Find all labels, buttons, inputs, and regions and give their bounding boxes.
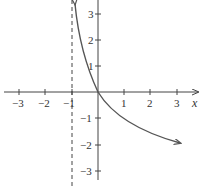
x-tick-label: 1 <box>121 97 127 109</box>
y-tick-label: −3 <box>80 165 92 177</box>
y-tick-label: 3 <box>88 8 94 20</box>
x-tick-label: 3 <box>174 97 180 109</box>
x-tick-label: −3 <box>12 97 24 109</box>
x-tick-label: −2 <box>38 97 50 109</box>
x-tick-label: −1 <box>63 97 75 109</box>
y-tick-label: 2 <box>88 34 94 46</box>
chart-canvas: −3 −2 −1 1 2 3 x 3 2 1 −1 −2 −3 <box>0 0 202 188</box>
x-tick-label: 2 <box>147 97 153 109</box>
x-axis-label: x <box>191 96 198 110</box>
y-tick-label: −1 <box>80 112 92 124</box>
y-tick-label: −2 <box>80 139 92 151</box>
